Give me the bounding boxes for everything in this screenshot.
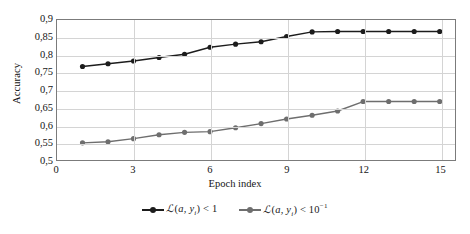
legend-item-label: ℒ(a, yi) < 1 (166, 202, 217, 217)
data-point-loss-lt-1 (105, 61, 110, 66)
data-point-loss-lt-10e-1 (386, 99, 391, 104)
gridline-horizontal (57, 56, 455, 57)
gridline-horizontal (57, 144, 455, 145)
y-axis-tick-label: 0,8 (23, 50, 53, 60)
data-point-loss-lt-10e-1 (156, 132, 161, 137)
x-axis-tick-label: 0 (41, 164, 71, 176)
gridline-vertical (288, 20, 289, 160)
plot-area (56, 19, 456, 161)
accuracy-vs-epoch-chart: Accuracy 0,50,550,60,650,70,750,80,850,9… (0, 0, 470, 234)
legend-item-loss-lt-1[interactable]: ℒ(a, yi) < 1 (142, 202, 217, 217)
y-axis-tick-labels: 0,50,550,60,650,70,750,80,850,9 (20, 0, 53, 234)
x-axis-tick-label: 15 (426, 164, 456, 176)
y-axis-tick-label: 0,6 (23, 121, 53, 131)
chart-legend: ℒ(a, yi) < 1ℒ(a, yi) < 10−1 (0, 202, 470, 218)
series-canvas (57, 20, 455, 160)
data-point-loss-lt-1 (233, 42, 238, 47)
x-axis-tick-label: 12 (349, 164, 379, 176)
legend-marker-icon (142, 205, 164, 214)
data-point-loss-lt-1 (412, 29, 417, 34)
legend-item-loss-lt-10e-1[interactable]: ℒ(a, yi) < 10−1 (239, 202, 327, 218)
x-axis-tick-label: 9 (272, 164, 302, 176)
y-axis-tick-label: 0,55 (23, 138, 53, 148)
gridline-horizontal (57, 38, 455, 39)
data-point-loss-lt-1 (386, 29, 391, 34)
x-axis-tick-label: 6 (195, 164, 225, 176)
data-point-loss-lt-10e-1 (310, 113, 315, 118)
legend-marker-icon (239, 205, 261, 214)
data-point-loss-lt-1 (259, 39, 264, 44)
data-point-loss-lt-10e-1 (412, 99, 417, 104)
legend-item-label: ℒ(a, yi) < 10−1 (263, 202, 327, 218)
y-axis-tick-label: 0,7 (23, 85, 53, 95)
data-point-loss-lt-10e-1 (182, 130, 187, 135)
data-point-loss-lt-1 (335, 29, 340, 34)
x-axis-title: Epoch index (0, 178, 470, 189)
x-axis-tick-label: 3 (118, 164, 148, 176)
data-point-loss-lt-1 (310, 29, 315, 34)
y-axis-tick-label: 0,65 (23, 103, 53, 113)
gridline-vertical (442, 20, 443, 160)
y-axis-tick-label: 0,9 (23, 14, 53, 24)
x-axis-tick-labels: 03691215 (0, 164, 470, 178)
gridline-horizontal (57, 91, 455, 92)
gridline-vertical (211, 20, 212, 160)
data-point-loss-lt-1 (80, 64, 85, 69)
data-point-loss-lt-10e-1 (259, 121, 264, 126)
gridline-vertical (365, 20, 366, 160)
gridline-vertical (134, 20, 135, 160)
gridline-horizontal (57, 73, 455, 74)
gridline-horizontal (57, 109, 455, 110)
gridline-horizontal (57, 127, 455, 128)
y-axis-tick-label: 0,75 (23, 67, 53, 77)
y-axis-tick-label: 0,85 (23, 32, 53, 42)
